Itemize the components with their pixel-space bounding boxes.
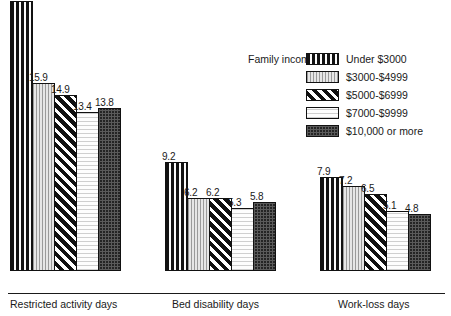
- bar: 7.2: [342, 186, 365, 271]
- legend-item: $10,000 or more: [306, 122, 423, 140]
- bar-value-label: 14.9: [51, 84, 70, 95]
- bar: 6.2: [209, 198, 232, 271]
- bar-value-label: 22.8: [7, 0, 26, 1]
- legend-label: $7000-$9999: [346, 107, 408, 119]
- bar: 4.8: [408, 214, 431, 271]
- category-label: Bed disability days: [172, 298, 259, 310]
- bar-value-label: 6.2: [184, 187, 197, 198]
- bar-value-label: 9.2: [162, 151, 175, 162]
- legend-label: Under $3000: [346, 53, 407, 65]
- bar: 13.4: [76, 112, 99, 271]
- legend-label: $5000-$6999: [346, 89, 408, 101]
- bar: 5.1: [386, 211, 409, 271]
- bar-group-bars: 9.26.26.25.35.8: [165, 1, 276, 271]
- category-label: Work-loss days: [338, 298, 410, 310]
- bar: 7.9: [320, 177, 343, 271]
- bar-value-label: 4.8: [405, 203, 418, 214]
- x-axis-line: [8, 293, 445, 294]
- category-label: Restricted activity days: [10, 298, 117, 310]
- legend-item: $7000-$9999: [306, 104, 423, 122]
- bar: 6.2: [187, 198, 210, 271]
- legend-swatch: [306, 71, 339, 83]
- legend-swatch: [306, 89, 339, 101]
- legend-item: Under $3000: [306, 50, 423, 68]
- bar: 15.9: [32, 83, 55, 271]
- grouped-bar-chart: 22.815.914.913.413.89.26.26.25.35.87.97.…: [0, 0, 451, 316]
- bar-value-label: 7.9: [317, 166, 330, 177]
- bar-value-label: 13.8: [95, 97, 114, 108]
- plot-area: 22.815.914.913.413.89.26.26.25.35.87.97.…: [0, 0, 451, 294]
- bar: 5.8: [253, 202, 276, 271]
- legend-item: $5000-$6999: [306, 86, 423, 104]
- bar-group-bars: 22.815.914.913.413.8: [10, 1, 121, 271]
- legend-item: $3000-$4999: [306, 68, 423, 86]
- legend-label: $3000-$4999: [346, 71, 408, 83]
- bar-value-label: 6.5: [361, 183, 374, 194]
- legend-swatch: [306, 125, 339, 137]
- legend-swatch: [306, 53, 339, 65]
- bar-value-label: 5.1: [383, 200, 396, 211]
- bar: 22.8: [10, 1, 33, 271]
- bar: 13.8: [98, 108, 121, 271]
- bar-value-label: 13.4: [73, 101, 92, 112]
- bar-value-label: 5.3: [228, 197, 241, 208]
- legend-label: $10,000 or more: [346, 125, 423, 137]
- bar-value-label: 6.2: [206, 187, 219, 198]
- legend-entries: Under $3000$3000-$4999$5000-$6999$7000-$…: [306, 50, 423, 140]
- bar: 5.3: [231, 208, 254, 271]
- legend-swatch: [306, 107, 339, 119]
- bar: 9.2: [165, 162, 188, 271]
- bar-value-label: 15.9: [29, 72, 48, 83]
- bar-value-label: 7.2: [339, 175, 352, 186]
- bar-value-label: 5.8: [250, 191, 263, 202]
- bar: 14.9: [54, 95, 77, 271]
